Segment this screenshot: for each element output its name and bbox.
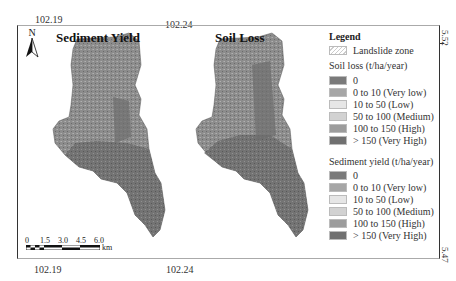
legend: Legend Landslide zone Soil loss (t/ha/ye… — [329, 31, 439, 231]
sediment-yield-heading: Sediment yield (t/ha/year) — [329, 156, 433, 167]
bottom-tick-102-24: 102.24 — [166, 264, 194, 275]
scale-unit: km — [102, 243, 112, 252]
soil-loss-class: 10 to 50 (Low) — [329, 99, 413, 109]
swatch — [329, 112, 347, 121]
top-tick-102-19: 102.19 — [35, 14, 63, 25]
soil-loss-class: 0 — [329, 75, 358, 85]
legend-title: Legend — [329, 31, 361, 42]
soil-loss-class: 50 to 100 (Medium) — [329, 111, 434, 121]
map-title-soil-loss: Soil Loss — [215, 30, 265, 46]
scale-label-1-5: 1.5 — [40, 236, 50, 245]
scale-label-3-0: 3.0 — [58, 236, 68, 245]
class-label: 50 to 100 (Medium) — [353, 206, 434, 217]
sediment-yield-class: > 150 (Very High) — [329, 230, 427, 240]
swatch — [329, 219, 347, 228]
swatch — [329, 207, 347, 216]
sediment-yield-class: 0 — [329, 170, 358, 180]
bottom-tick-102-19: 102.19 — [34, 264, 62, 275]
soil-loss-map — [196, 33, 308, 237]
swatch — [329, 136, 347, 145]
scale-bar: 0 1.5 3.0 4.5 6.0 km — [25, 236, 145, 256]
swatch — [329, 171, 347, 180]
scale-label-4-5: 4.5 — [76, 236, 86, 245]
class-label: 0 to 10 (Very low) — [353, 182, 426, 193]
sediment-yield-class: 0 to 10 (Very low) — [329, 182, 426, 192]
landslide-label: Landslide zone — [353, 45, 414, 56]
class-label: 50 to 100 (Medium) — [353, 111, 434, 122]
swatch — [329, 76, 347, 85]
map-title-sediment-yield: Sediment Yield — [56, 30, 140, 46]
class-label: 0 — [353, 75, 358, 86]
class-label: 0 to 10 (Very low) — [353, 87, 426, 98]
class-label: 10 to 50 (Low) — [353, 99, 413, 110]
scale-bar-graphic — [26, 245, 100, 250]
swatch — [329, 88, 347, 97]
class-label: > 150 (Very High) — [353, 230, 427, 241]
sediment-yield-map — [53, 33, 165, 237]
swatch — [329, 231, 347, 240]
sediment-yield-class: 100 to 150 (High) — [329, 218, 425, 228]
soil-loss-class: 0 to 10 (Very low) — [329, 87, 426, 97]
scale-label-0: 0 — [25, 236, 29, 245]
swatch — [329, 183, 347, 192]
class-label: 100 to 150 (High) — [353, 218, 425, 229]
swatch — [329, 100, 347, 109]
sediment-yield-class: 10 to 50 (Low) — [329, 194, 413, 204]
class-label: 10 to 50 (Low) — [353, 194, 413, 205]
soil-loss-heading: Soil loss (t/ha/year) — [329, 60, 407, 71]
soil-loss-class: > 150 (Very High) — [329, 135, 427, 145]
right-tick-5-47: 5.47 — [440, 247, 450, 263]
class-label: > 150 (Very High) — [353, 135, 427, 146]
class-label: 0 — [353, 170, 358, 181]
watershed-maps — [17, 25, 317, 259]
sediment-yield-class: 50 to 100 (Medium) — [329, 206, 434, 216]
swatch — [329, 124, 347, 133]
soil-loss-class: 100 to 150 (High) — [329, 123, 425, 133]
landslide-hatch-swatch — [329, 46, 347, 55]
swatch — [329, 195, 347, 204]
class-label: 100 to 150 (High) — [353, 123, 425, 134]
legend-landslide-zone: Landslide zone — [329, 45, 414, 55]
